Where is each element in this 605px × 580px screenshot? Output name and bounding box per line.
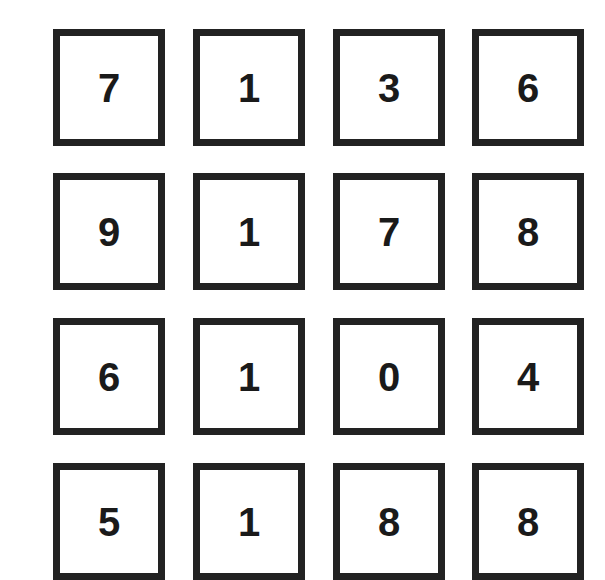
digit-box-r4-c2: 1 bbox=[193, 463, 305, 580]
digit: 6 bbox=[98, 357, 120, 397]
digit: 7 bbox=[98, 68, 120, 108]
digit-box-r2-c1: 9 bbox=[53, 173, 165, 290]
digit-box-r3-c1: 6 bbox=[53, 318, 165, 435]
digit-box-r4-c4: 8 bbox=[472, 463, 584, 580]
digit-box-r3-c4: 4 bbox=[472, 318, 584, 435]
digit: 5 bbox=[98, 502, 120, 542]
digit-box-r4-c1: 5 bbox=[53, 463, 165, 580]
digit-box-r2-c4: 8 bbox=[472, 173, 584, 290]
digit-box-r4-c3: 8 bbox=[333, 463, 445, 580]
digit: 8 bbox=[517, 502, 539, 542]
digit: 1 bbox=[238, 357, 260, 397]
digit: 6 bbox=[517, 68, 539, 108]
digit: 4 bbox=[517, 357, 539, 397]
digit: 1 bbox=[238, 212, 260, 252]
digit: 8 bbox=[517, 212, 539, 252]
digit-box-r1-c1: 7 bbox=[53, 29, 165, 146]
digit-box-r2-c2: 1 bbox=[193, 173, 305, 290]
digit-box-r2-c3: 7 bbox=[333, 173, 445, 290]
digit: 8 bbox=[378, 502, 400, 542]
digit: 7 bbox=[378, 212, 400, 252]
digit-box-r3-c2: 1 bbox=[193, 318, 305, 435]
digit: 0 bbox=[378, 357, 400, 397]
digit-box-r3-c3: 0 bbox=[333, 318, 445, 435]
digit: 3 bbox=[378, 68, 400, 108]
digit-box-r1-c3: 3 bbox=[333, 29, 445, 146]
digit: 9 bbox=[98, 212, 120, 252]
digit-box-r1-c4: 6 bbox=[472, 29, 584, 146]
digit: 1 bbox=[238, 68, 260, 108]
digit: 1 bbox=[238, 502, 260, 542]
digit-box-r1-c2: 1 bbox=[193, 29, 305, 146]
